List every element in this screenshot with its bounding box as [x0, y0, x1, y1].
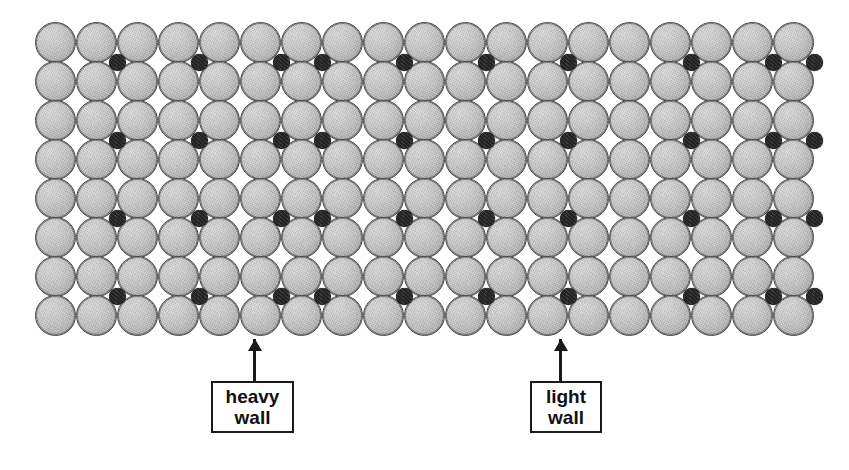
interstitial-atom [765, 288, 782, 305]
interstitial-atom [478, 288, 495, 305]
interstitial-atom [806, 132, 823, 149]
interstitial-atom [478, 210, 495, 227]
interstitial-atom [109, 288, 126, 305]
lattice-domain-wall-figure: heavy wall light wall [0, 0, 849, 470]
host-sphere [35, 295, 76, 336]
interstitial-atom [109, 210, 126, 227]
heavy-wall-label-box: heavy wall [211, 381, 294, 433]
interstitial-atom [314, 132, 331, 149]
light-wall-label-line1: light [546, 386, 586, 407]
interstitial-atom [806, 54, 823, 71]
interstitial-atom [396, 288, 413, 305]
interstitial-atom [273, 210, 290, 227]
interstitial-atom [396, 210, 413, 227]
interstitial-atom [683, 132, 700, 149]
interstitial-atom [683, 54, 700, 71]
host-sphere [609, 295, 650, 336]
interstitial-atom [765, 210, 782, 227]
host-sphere [35, 22, 76, 63]
interstitial-atom [806, 288, 823, 305]
host-sphere [609, 61, 650, 102]
light-wall-arrow-head [554, 339, 568, 351]
host-sphere [35, 139, 76, 180]
interstitial-atom [191, 54, 208, 71]
interstitial-atom [109, 54, 126, 71]
interstitial-atom [683, 210, 700, 227]
host-sphere [35, 217, 76, 258]
heavy-wall-label-line2: wall [235, 407, 271, 428]
interstitial-atom [478, 54, 495, 71]
host-sphere [609, 22, 650, 63]
lattice-layer [0, 0, 849, 470]
interstitial-atom [765, 132, 782, 149]
heavy-wall-arrow-head [248, 339, 262, 351]
interstitial-atom [560, 132, 577, 149]
light-wall-label-box: light wall [530, 381, 602, 433]
interstitial-atom [396, 54, 413, 71]
interstitial-atom [765, 54, 782, 71]
interstitial-atom [273, 54, 290, 71]
interstitial-atom [560, 54, 577, 71]
light-wall-arrow [559, 339, 562, 381]
host-sphere [35, 61, 76, 102]
interstitial-atom [478, 132, 495, 149]
interstitial-atom [191, 288, 208, 305]
interstitial-atom [560, 288, 577, 305]
heavy-wall-arrow [253, 339, 256, 381]
light-wall-label-line2: wall [548, 407, 584, 428]
host-sphere [35, 256, 76, 297]
interstitial-atom [314, 210, 331, 227]
interstitial-atom [273, 288, 290, 305]
interstitial-atom [683, 288, 700, 305]
host-sphere [609, 217, 650, 258]
host-sphere [35, 100, 76, 141]
interstitial-atom [273, 132, 290, 149]
host-sphere [35, 178, 76, 219]
interstitial-atom [314, 288, 331, 305]
host-sphere [609, 100, 650, 141]
interstitial-atom [191, 210, 208, 227]
host-sphere [609, 139, 650, 180]
heavy-wall-label-line1: heavy [226, 386, 280, 407]
interstitial-atom [396, 132, 413, 149]
interstitial-atom [560, 210, 577, 227]
interstitial-atom [314, 54, 331, 71]
interstitial-atom [109, 132, 126, 149]
host-sphere [609, 178, 650, 219]
interstitial-atom [191, 132, 208, 149]
host-sphere [609, 256, 650, 297]
interstitial-atom [806, 210, 823, 227]
